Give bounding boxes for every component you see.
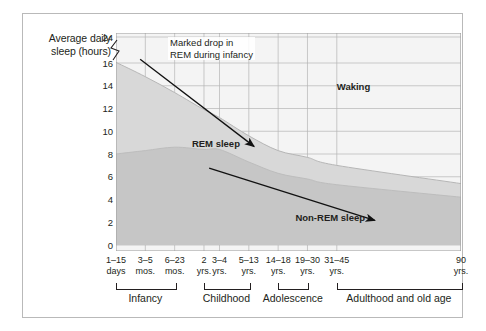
stage-label: Adulthood and old age: [307, 292, 486, 304]
sleep-area-chart: [116, 33, 461, 251]
plot-area-wrapper: 024681012141624 WakingREM sleepNon-REM s…: [116, 33, 461, 271]
y-axis-tick-label: 12: [83, 104, 113, 113]
stage-bracket: [278, 283, 309, 290]
y-axis-tick-label: 0: [83, 241, 113, 250]
y-axis-tick-label: 10: [83, 127, 113, 136]
y-axis-tick-label: 8: [83, 150, 113, 159]
stage-bracket: [337, 283, 463, 290]
x-axis-tick-label: 31–45 yrs.: [320, 255, 354, 276]
stage-bracket: [204, 283, 251, 290]
region-label-rem-sleep: REM sleep: [192, 138, 240, 149]
region-label-non-rem-sleep: Non-REM sleep: [295, 212, 365, 223]
annotation-line-2: REM during infancy: [168, 49, 255, 61]
y-axis-break-icon: [108, 39, 122, 61]
y-axis-tick-label: 4: [83, 195, 113, 204]
figure-panel: Average daily sleep (hours) 024681012141…: [22, 13, 463, 318]
y-axis-tick-label: 6: [83, 172, 113, 181]
annotation-rem-drop: Marked drop in REM during infancy: [168, 37, 255, 60]
y-axis-tick-label: 2: [83, 218, 113, 227]
region-label-waking: Waking: [337, 81, 370, 92]
stage-bracket: [116, 283, 177, 290]
y-axis-tick-label: 14: [83, 81, 113, 90]
x-axis-tick-label: 90 yrs.: [444, 255, 478, 276]
annotation-line-1: Marked drop in: [168, 37, 255, 49]
